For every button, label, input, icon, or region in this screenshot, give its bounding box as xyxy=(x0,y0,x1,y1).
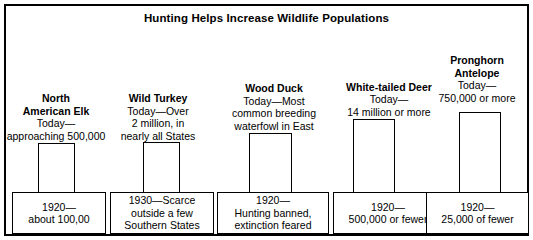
bar-wild-turkey xyxy=(143,142,180,193)
past-line1: 1920— xyxy=(218,194,328,206)
past-line2: outside a few xyxy=(111,207,213,219)
column-north-american-elk: North American Elk Today— approaching 50… xyxy=(2,66,110,142)
past-box-pronghorn-antelope: 1920— 25,000 of fewer xyxy=(426,192,529,234)
today-stat-line2: 750,000 or more xyxy=(423,92,531,104)
today-stat-line2: approaching 500,000 xyxy=(2,130,110,142)
caption-wood-duck: Wood Duck Today—Most common breeding wat… xyxy=(216,82,332,132)
bar-pronghorn-antelope xyxy=(459,112,501,193)
past-line1: 1920— xyxy=(427,201,528,213)
today-stat-line2: 14 million or more xyxy=(332,106,446,118)
bar-white-tailed-deer xyxy=(353,119,395,193)
past-line1: 1920— xyxy=(13,201,105,213)
today-stat-line1: Today—Over xyxy=(103,105,213,117)
species-name-line1: Pronghorn xyxy=(423,54,531,66)
caption-north-american-elk: North American Elk Today— approaching 50… xyxy=(2,92,110,142)
past-line3: extinction feared xyxy=(218,219,328,231)
species-name-line1: Wild Turkey xyxy=(103,92,213,104)
today-stat-line2: 2 million, in xyxy=(103,117,213,129)
today-stat-line1: Today— xyxy=(2,117,110,129)
past-line3: Southern States xyxy=(111,219,213,231)
wildlife-population-infographic: Hunting Helps Increase Wildlife Populati… xyxy=(0,0,533,240)
today-stat-line1: Today— xyxy=(423,79,531,91)
species-name-line1: North xyxy=(2,92,110,104)
today-stat-line1: Today—Most xyxy=(216,95,332,107)
past-box-wild-turkey: 1930—Scarce outside a few Southern State… xyxy=(110,192,214,234)
column-pronghorn-antelope: Pronghorn Antelope Today— 750,000 or mor… xyxy=(423,48,531,104)
past-box-wood-duck: 1920— Hunting banned, extinction feared xyxy=(217,192,329,234)
today-stat-line3: nearly all States xyxy=(103,130,213,142)
caption-pronghorn-antelope: Pronghorn Antelope Today— 750,000 or mor… xyxy=(423,54,531,104)
species-name-line2: American Elk xyxy=(2,105,110,117)
today-stat-line3: waterfowl in East xyxy=(216,120,332,132)
today-stat-line2: common breeding xyxy=(216,107,332,119)
column-wild-turkey: Wild Turkey Today—Over 2 million, in nea… xyxy=(103,66,213,142)
past-line2: about 100,00 xyxy=(13,213,105,225)
past-line2: 25,000 of fewer xyxy=(427,213,528,225)
species-name-line2: Antelope xyxy=(423,67,531,79)
past-line2: Hunting banned, xyxy=(218,207,328,219)
bar-north-american-elk xyxy=(38,143,75,193)
caption-wild-turkey: Wild Turkey Today—Over 2 million, in nea… xyxy=(103,92,213,142)
bar-wood-duck xyxy=(249,133,292,193)
past-box-north-american-elk: 1920— about 100,00 xyxy=(12,192,106,234)
species-name-line1: Wood Duck xyxy=(216,82,332,94)
column-wood-duck: Wood Duck Today—Most common breeding wat… xyxy=(216,62,332,132)
page-title: Hunting Helps Increase Wildlife Populati… xyxy=(0,12,533,24)
past-line1: 1930—Scarce xyxy=(111,194,213,206)
